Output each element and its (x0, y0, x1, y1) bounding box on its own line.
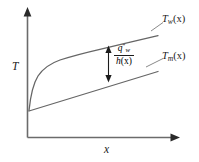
gap-expression-numerator: q″w (114, 42, 134, 54)
mean-temperature-leader (146, 59, 163, 68)
x-axis-arrow-head (171, 134, 181, 142)
curve-label-wall-temperature: Tw(x) (162, 14, 185, 25)
gap-denominator-argument: (x) (121, 56, 132, 66)
gap-numerator-subscript: w (125, 46, 130, 53)
curve-label-wall-argument: (x) (173, 13, 185, 24)
gap-expression-denominator: h(x) (114, 56, 134, 66)
gap-expression: q″w h(x) (114, 42, 134, 67)
y-axis-arrow-head (24, 7, 32, 17)
curve-label-mean-temperature: Tm(x) (162, 51, 186, 62)
y-axis (24, 7, 32, 138)
thermal-diagram-figure: Tw(x) Tm(x) T x q″w h(x) (0, 0, 199, 162)
gap-arrow-head-down (105, 75, 111, 83)
curve-label-mean-argument: (x) (173, 50, 185, 61)
wall-temperature-curve (29, 36, 158, 111)
x-axis (28, 134, 181, 142)
temperature-gap-arrow (105, 46, 111, 83)
y-axis-label: T (12, 61, 18, 73)
mean-temperature-curve (29, 72, 158, 112)
x-axis-label: x (104, 144, 109, 156)
